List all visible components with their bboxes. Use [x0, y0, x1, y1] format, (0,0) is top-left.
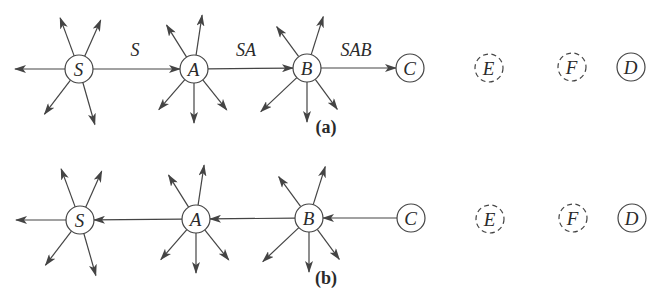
node-C: C — [396, 54, 424, 82]
edge-A-to-B — [208, 68, 293, 69]
fanout-arrow-B-2 — [263, 228, 299, 262]
panel-caption-a: (a) — [316, 117, 337, 138]
fanout-arrow-B-4 — [315, 79, 337, 109]
node-label-E: E — [482, 58, 495, 79]
node-S: S — [65, 55, 93, 83]
fanout-arrow-S-4 — [84, 233, 96, 275]
fanout-arrow-A-4 — [205, 230, 229, 260]
node-label-C: C — [403, 58, 416, 79]
node-A: A — [182, 205, 210, 233]
node-label-A: A — [188, 209, 202, 230]
node-label-A: A — [186, 59, 200, 80]
fanout-arrow-A-2 — [159, 80, 185, 110]
fanout-arrow-B-4 — [317, 229, 339, 259]
edge-A-to-S — [94, 219, 182, 220]
fanout-arrow-S-3 — [45, 231, 71, 265]
node-label-F: F — [565, 57, 578, 78]
fanout-arrow-A-1 — [196, 15, 202, 55]
node-C: C — [397, 204, 425, 232]
fanout-arrow-S-4 — [83, 82, 95, 124]
panel-caption-b: (b) — [315, 268, 337, 289]
fanout-arrow-B-0 — [279, 177, 301, 207]
fanout-arrow-A-0 — [169, 175, 189, 207]
fanout-arrow-S-1 — [60, 18, 74, 56]
node-F: F — [558, 53, 586, 81]
panel-b: SABCEFD(b) — [16, 165, 646, 289]
node-label-B: B — [303, 208, 315, 229]
diagram-canvas: SSASABSABCEFD(a) SABCEFD(b) — [0, 0, 672, 300]
fanout-arrow-A-1 — [198, 165, 204, 205]
panel-a: SSASABSABCEFD(a) — [15, 15, 645, 138]
node-B: B — [295, 204, 323, 232]
fanout-arrow-A-4 — [203, 80, 227, 110]
node-label-S: S — [74, 59, 84, 80]
edge-label-S-A: S — [131, 40, 140, 60]
fanout-arrow-B-2 — [261, 78, 297, 112]
fanout-arrow-S-2 — [85, 20, 101, 56]
node-E: E — [476, 205, 504, 233]
fanout-arrow-A-0 — [167, 25, 187, 57]
node-label-D: D — [624, 208, 639, 229]
node-S: S — [66, 206, 94, 234]
fanout-arrow-B-0 — [277, 27, 299, 57]
edge-label-B-C: SAB — [341, 40, 372, 60]
node-D: D — [617, 53, 645, 81]
node-label-C: C — [404, 208, 417, 229]
node-E: E — [475, 54, 503, 82]
node-D: D — [618, 204, 646, 232]
fanout-arrow-S-1 — [61, 169, 75, 207]
fanout-arrow-B-1 — [313, 167, 325, 205]
node-label-D: D — [623, 57, 638, 78]
fanout-arrow-A-2 — [161, 230, 187, 260]
edge-B-to-A — [210, 218, 295, 219]
node-label-E: E — [483, 209, 496, 230]
node-label-S: S — [75, 210, 85, 231]
node-label-B: B — [301, 58, 313, 79]
fanout-arrow-B-1 — [311, 17, 323, 55]
fanout-arrow-S-3 — [44, 80, 70, 114]
edge-label-A-B: SA — [236, 40, 257, 60]
node-F: F — [559, 204, 587, 232]
fanout-arrow-S-2 — [86, 171, 102, 207]
node-label-F: F — [566, 208, 579, 229]
node-A: A — [180, 55, 208, 83]
node-B: B — [293, 54, 321, 82]
